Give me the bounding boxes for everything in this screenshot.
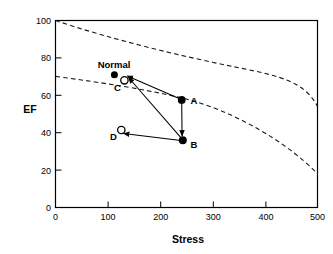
label-d: D — [110, 131, 117, 142]
reference-curves — [56, 21, 318, 174]
marker-normal[interactable] — [111, 71, 118, 78]
x-tick-label-400: 400 — [258, 212, 273, 222]
arrow-b-to-d — [124, 134, 181, 141]
label-normal: Normal — [98, 59, 131, 70]
y-tick-label-80: 80 — [41, 53, 51, 63]
arrow-b-to-c — [129, 78, 183, 140]
y-tick-label-20: 20 — [41, 166, 51, 176]
marker-d[interactable] — [118, 126, 125, 133]
x-tick-labels: 0 100 200 300 400 500 — [53, 212, 325, 222]
arrow-a-to-c — [127, 76, 180, 99]
marker-c[interactable] — [121, 77, 128, 84]
label-c: C — [114, 82, 121, 93]
x-tick-label-300: 300 — [206, 212, 221, 222]
label-a: A — [191, 95, 198, 106]
x-tick-label-0: 0 — [53, 212, 58, 222]
marker-a[interactable] — [178, 96, 186, 104]
y-axis-ticks — [56, 21, 62, 208]
marker-b[interactable] — [179, 136, 187, 144]
lower-normal-limit-curve — [56, 76, 318, 173]
transition-arrows — [124, 76, 183, 141]
y-tick-label-60: 60 — [41, 91, 51, 101]
y-tick-label-100: 100 — [36, 16, 51, 26]
ef-vs-stress-scatter-chart: 0 20 40 60 80 100 0 100 200 300 400 500 … — [0, 0, 333, 254]
x-axis-title: Stress — [172, 233, 204, 245]
y-tick-labels: 0 20 40 60 80 100 — [36, 16, 51, 213]
y-tick-label-40: 40 — [41, 128, 51, 138]
label-b: B — [191, 139, 198, 150]
data-points — [111, 71, 187, 144]
x-tick-label-500: 500 — [310, 212, 325, 222]
y-axis-title: EF — [23, 103, 37, 115]
y-tick-label-0: 0 — [46, 203, 51, 213]
x-tick-label-200: 200 — [153, 212, 168, 222]
x-axis-ticks — [56, 202, 318, 208]
upper-normal-limit-curve — [56, 21, 318, 107]
x-tick-label-100: 100 — [101, 212, 116, 222]
plot-border — [56, 21, 318, 208]
chart-container: 0 20 40 60 80 100 0 100 200 300 400 500 … — [0, 0, 333, 254]
plot-frame — [56, 21, 318, 208]
